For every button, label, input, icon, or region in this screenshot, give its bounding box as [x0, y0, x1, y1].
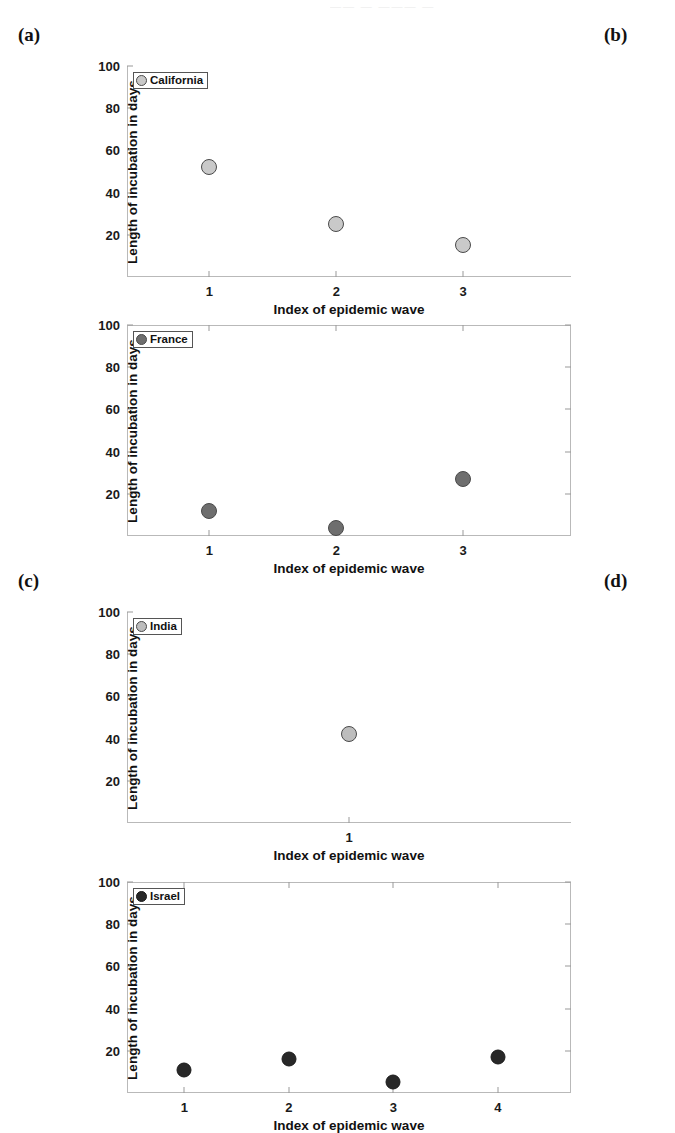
data-point-california-wave-2 — [328, 216, 344, 232]
x-tick-mark-top — [497, 882, 498, 888]
y-tick-mark — [127, 325, 133, 326]
panel-label-c: (c) — [18, 570, 39, 592]
x-tick-mark — [497, 1087, 498, 1093]
x-tick-mark — [463, 271, 464, 277]
x-tick-label: 1 — [206, 543, 213, 558]
y-tick-mark-right — [565, 325, 571, 326]
y-tick-label: 60 — [106, 959, 120, 974]
y-tick-label: 80 — [106, 101, 120, 116]
legend-marker-icon — [136, 621, 147, 632]
plot-area-france: 20406080100123Index of epidemic waveLeng… — [127, 325, 571, 536]
x-tick-mark-top — [209, 325, 210, 331]
panel-label-b: (b) — [604, 24, 627, 46]
legend-marker-icon — [136, 891, 147, 902]
x-tick-mark — [288, 1087, 289, 1093]
plot-area-california: 20406080100123Index of epidemic waveLeng… — [127, 66, 571, 277]
x-tick-mark-top — [288, 882, 289, 888]
x-tick-mark — [336, 271, 337, 277]
data-point-france-wave-3 — [455, 471, 471, 487]
legend-label: France — [150, 334, 188, 346]
legend-label: California — [150, 75, 203, 87]
data-point-france-wave-2 — [328, 520, 344, 536]
data-point-california-wave-3 — [455, 237, 471, 253]
y-tick-mark-right — [565, 966, 571, 967]
y-tick-label: 100 — [98, 59, 120, 74]
y-tick-mark-right — [565, 1050, 571, 1051]
x-tick-label: 2 — [333, 284, 340, 299]
y-tick-mark-right — [565, 409, 571, 410]
y-tick-label: 60 — [106, 402, 120, 417]
x-axis-label: Index of epidemic wave — [274, 561, 425, 576]
y-axis-label: Length of incubation in days — [125, 339, 140, 523]
x-tick-label: 2 — [333, 543, 340, 558]
y-tick-mark — [127, 882, 133, 883]
y-tick-label: 40 — [106, 185, 120, 200]
x-axis-label: Index of epidemic wave — [274, 302, 425, 317]
legend-india[interactable]: India — [133, 618, 182, 635]
y-tick-mark-right — [565, 493, 571, 494]
x-tick-label: 1 — [345, 830, 352, 845]
y-tick-mark — [127, 66, 133, 67]
x-axis-label: Index of epidemic wave — [274, 1118, 425, 1133]
x-tick-mark — [184, 1087, 185, 1093]
cropped-header-text: —— — ——— — — [330, 0, 660, 12]
legend-marker-icon — [136, 334, 147, 345]
x-tick-mark-top — [463, 325, 464, 331]
legend-label: India — [150, 621, 177, 633]
y-tick-label: 40 — [106, 1001, 120, 1016]
y-tick-label: 100 — [98, 875, 120, 890]
panel-label-d: (d) — [604, 570, 627, 592]
x-tick-label: 3 — [390, 1100, 397, 1115]
x-tick-mark — [209, 530, 210, 536]
y-tick-label: 20 — [106, 773, 120, 788]
x-tick-label: 1 — [206, 284, 213, 299]
y-tick-label: 80 — [106, 647, 120, 662]
x-tick-mark-top — [336, 325, 337, 331]
y-tick-label: 20 — [106, 1043, 120, 1058]
y-tick-mark-right — [565, 924, 571, 925]
plot-frame — [127, 325, 571, 536]
plot-frame — [127, 882, 571, 1093]
y-tick-label: 100 — [98, 605, 120, 620]
y-tick-mark-right — [565, 367, 571, 368]
x-tick-label: 3 — [460, 543, 467, 558]
x-tick-label: 2 — [285, 1100, 292, 1115]
y-tick-mark — [127, 612, 133, 613]
data-point-california-wave-1 — [201, 159, 217, 175]
y-tick-label: 20 — [106, 227, 120, 242]
plot-area-israel: 204060801001234Index of epidemic waveLen… — [127, 882, 571, 1093]
data-point-india-wave-1 — [341, 726, 357, 742]
plot-area-india: 204060801001Index of epidemic waveLength… — [127, 612, 571, 823]
y-axis-label: Length of incubation in days — [125, 80, 140, 264]
y-tick-mark-right — [565, 1008, 571, 1009]
y-tick-label: 40 — [106, 444, 120, 459]
x-tick-mark — [463, 530, 464, 536]
x-tick-mark — [349, 817, 350, 823]
legend-israel[interactable]: Israel — [133, 888, 185, 905]
y-tick-label: 20 — [106, 486, 120, 501]
x-tick-mark-top — [393, 882, 394, 888]
x-tick-label: 1 — [181, 1100, 188, 1115]
data-point-israel-wave-2 — [281, 1052, 296, 1067]
y-tick-mark-right — [565, 451, 571, 452]
legend-california[interactable]: California — [133, 72, 208, 89]
legend-france[interactable]: France — [133, 331, 193, 348]
y-tick-label: 100 — [98, 318, 120, 333]
y-tick-label: 80 — [106, 917, 120, 932]
legend-label: Israel — [150, 891, 180, 903]
y-axis-label: Length of incubation in days — [125, 626, 140, 810]
y-tick-label: 40 — [106, 731, 120, 746]
x-tick-label: 4 — [494, 1100, 501, 1115]
y-tick-label: 80 — [106, 360, 120, 375]
y-axis-label: Length of incubation in days — [125, 896, 140, 1080]
data-point-israel-wave-4 — [490, 1050, 505, 1065]
data-point-france-wave-1 — [201, 503, 217, 519]
y-tick-label: 60 — [106, 143, 120, 158]
data-point-israel-wave-1 — [177, 1062, 192, 1077]
data-point-israel-wave-3 — [386, 1075, 401, 1090]
y-tick-label: 60 — [106, 689, 120, 704]
x-tick-mark — [209, 271, 210, 277]
panel-label-a: (a) — [18, 24, 40, 46]
y-tick-mark-right — [565, 882, 571, 883]
x-tick-label: 3 — [460, 284, 467, 299]
